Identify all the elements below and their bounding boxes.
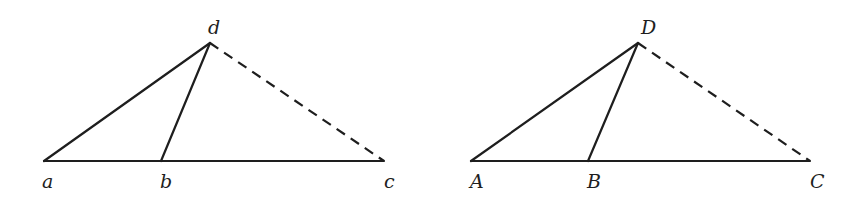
right-triangle-figure: D A B C: [468, 16, 825, 192]
vertex-label-A: A: [468, 170, 484, 192]
triangle-diagrams: d a b c D A B C: [0, 0, 858, 201]
vertex-label-d: d: [208, 16, 220, 38]
left-triangle-figure: d a b c: [42, 16, 395, 192]
vertex-label-c: c: [384, 170, 395, 192]
vertex-label-C: C: [810, 170, 825, 192]
segment-dc-dashed: [210, 43, 384, 161]
vertex-label-a: a: [42, 170, 53, 192]
vertex-label-b: b: [160, 170, 172, 192]
vertex-label-D: D: [640, 16, 656, 38]
vertex-label-B: B: [586, 170, 601, 192]
segment-DC-dashed: [638, 43, 810, 161]
